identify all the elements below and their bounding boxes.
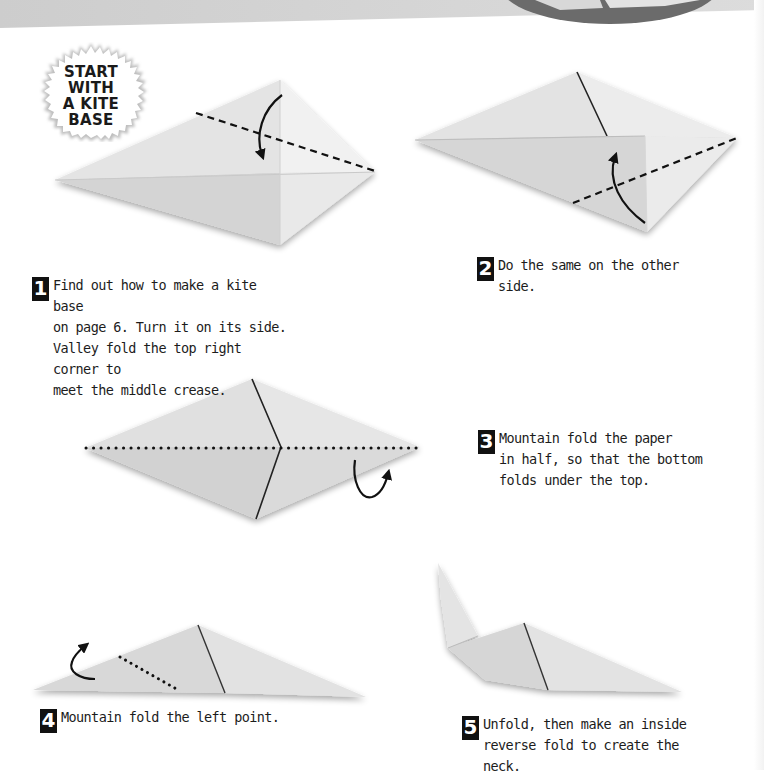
step-1-caption: 1 Find out how to make a kite base on pa…	[32, 275, 292, 401]
step-5-caption: 5 Unfold, then make an inside reverse fo…	[462, 714, 722, 775]
step-number-badge: 2	[477, 257, 494, 281]
badge-line: WITH	[30, 80, 152, 96]
start-badge: START WITH A KITE BASE	[30, 42, 152, 142]
badge-line: BASE	[30, 112, 152, 128]
step-number-badge: 1	[32, 277, 49, 301]
step-number-badge: 4	[40, 709, 57, 733]
triangle-left-point-fold-diagram	[33, 625, 366, 697]
badge-line: START	[30, 64, 152, 80]
step-2-caption: 2 Do the same on the other side.	[477, 255, 717, 297]
inside-reverse-fold-neck-diagram	[438, 563, 682, 692]
step-number-badge: 5	[462, 716, 479, 740]
badge-text: START WITH A KITE BASE	[30, 64, 152, 128]
kite-other-side-fold-diagram	[415, 72, 737, 232]
badge-line: A KITE	[30, 96, 152, 112]
step-instruction-text: Unfold, then make an inside reverse fold…	[483, 714, 722, 775]
step-instruction-text: Mountain fold the left point.	[61, 707, 279, 728]
step-4-caption: 4 Mountain fold the left point.	[40, 707, 300, 733]
step-number-badge: 3	[478, 430, 495, 454]
step-instruction-text: Mountain fold the paper in half, so that…	[499, 428, 702, 491]
step-instruction-text: Do the same on the other side.	[498, 255, 717, 297]
step-instruction-text: Find out how to make a kite base on page…	[53, 275, 292, 401]
step-3-caption: 3 Mountain fold the paper in half, so th…	[478, 428, 708, 491]
